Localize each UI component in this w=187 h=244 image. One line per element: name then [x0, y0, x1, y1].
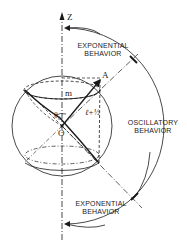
label-exponential-top: EXPONENTIAL BEHAVIOR	[70, 42, 136, 58]
label-oscillatory: OSCILLATORY BEHAVIOR	[122, 119, 184, 135]
point-a-label: A	[102, 70, 109, 80]
vector-length-label: ℓ+½	[85, 108, 100, 117]
z-axis-arrow-icon	[60, 12, 65, 20]
boundary-line-upper	[62, 54, 138, 126]
label-exponential-bottom: EXPONENTIAL BEHAVIOR	[68, 200, 134, 216]
origin-label: O	[58, 128, 65, 138]
boundary-line-lower	[62, 126, 142, 208]
z-axis-label: Z	[67, 12, 73, 22]
angle-theta-label: θ₀	[54, 111, 61, 120]
vector-oa	[62, 80, 100, 126]
projection-m-label: m	[65, 88, 72, 98]
